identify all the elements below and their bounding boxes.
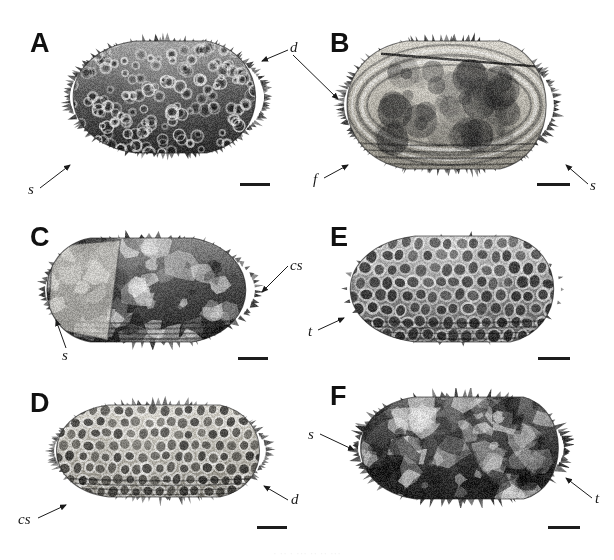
- panel-letter-c: C: [30, 224, 50, 251]
- annotation-label-c-cs: cs: [290, 258, 303, 273]
- annotation-label-a-s: s: [28, 182, 34, 197]
- panel-letter-f: F: [330, 383, 347, 410]
- annotation-label-f-t: t: [595, 491, 599, 506]
- panel-letter-e: E: [330, 224, 348, 251]
- annotation-label-b-s: s: [590, 178, 596, 193]
- annotation-label-d-d: d: [291, 492, 299, 507]
- annotation-label-f-s: s: [308, 427, 314, 442]
- panel-letter-b: B: [330, 30, 350, 57]
- specimen-image-e: [338, 228, 570, 350]
- panel-letter-a: A: [30, 30, 50, 57]
- panel-letter-d: D: [30, 390, 50, 417]
- caption-remnant: · ·· · ··· ·· ·· ···: [0, 547, 614, 559]
- annotation-label-e-t: t: [308, 324, 312, 339]
- scale-bar-f: [548, 526, 580, 529]
- scale-bar-b: [537, 183, 570, 186]
- annotation-label-c-s: s: [62, 348, 68, 363]
- scale-bar-e: [538, 357, 570, 360]
- specimen-image-b: [332, 30, 566, 180]
- specimen-image-a: [60, 32, 274, 162]
- scale-bar-a: [240, 183, 270, 186]
- scale-bar-c: [238, 357, 268, 360]
- scale-bar-d: [257, 526, 287, 529]
- specimen-image-f: [348, 388, 574, 508]
- annotation-label-a-d: d: [290, 40, 298, 55]
- specimen-image-c: [36, 230, 264, 350]
- specimen-image-d: [44, 396, 276, 506]
- figure-plate: A B C E D F d s f s cs s t cs d s t · ··…: [0, 0, 614, 560]
- annotation-label-d-cs: cs: [18, 512, 31, 527]
- annotation-label-b-f: f: [313, 172, 317, 187]
